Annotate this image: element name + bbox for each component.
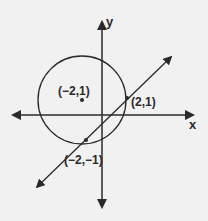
x-axis-label: x: [189, 117, 197, 132]
lower-intersection-point: [84, 138, 88, 142]
secant-line: [37, 57, 171, 187]
center-point-label: (−2,1): [58, 84, 90, 98]
center-point: [80, 98, 84, 102]
y-axis-label: y: [106, 14, 114, 29]
upper-intersection-label: (2,1): [131, 95, 156, 109]
lower-intersection-label: (−2,−1): [64, 153, 103, 167]
upper-intersection-point: [125, 96, 129, 100]
coordinate-diagram: y x (−2,1) (2,1) (−2,−1): [0, 0, 208, 221]
